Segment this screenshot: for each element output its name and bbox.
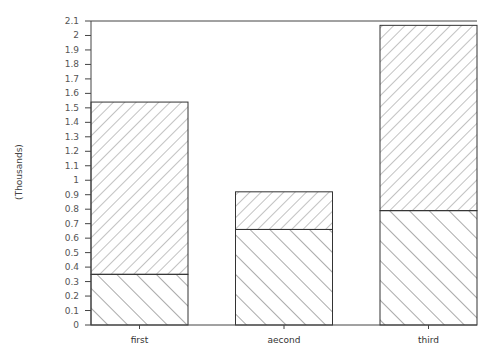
x-axis-labels: firstaecondthird: [131, 325, 439, 345]
y-tick-label: 1.6: [65, 88, 80, 98]
bar-segment-upper: [91, 102, 188, 274]
y-tick-label: 1.7: [65, 74, 79, 84]
y-tick-label: 2: [73, 30, 79, 40]
y-tick-label: 1.1: [65, 161, 79, 171]
bar-segment-upper: [380, 25, 477, 210]
y-tick-label: 1.2: [65, 146, 79, 156]
y-tick-label: 0.8: [65, 204, 80, 214]
y-tick-label: 1.5: [65, 103, 79, 113]
bar-segment-upper: [236, 192, 333, 230]
bar-segment-lower: [380, 211, 477, 325]
stacked-bar-chart: (Thousands) 00.10.20.30.40.50.60.70.80.9…: [0, 0, 494, 359]
y-axis-ticks: 00.10.20.30.40.50.60.70.80.911.11.21.31.…: [65, 16, 91, 330]
y-tick-label: 1: [73, 175, 79, 185]
y-tick-label: 1.3: [65, 132, 79, 142]
y-tick-label: 0.3: [65, 277, 79, 287]
y-tick-label: 1.9: [65, 45, 80, 55]
y-tick-label: 0.1: [65, 306, 79, 316]
y-tick-label: 2.1: [65, 16, 79, 26]
bar-segment-lower: [91, 274, 188, 325]
bar-segment-lower: [236, 229, 333, 325]
y-tick-label: 0.2: [65, 291, 79, 301]
x-tick-label: third: [418, 335, 439, 345]
y-tick-label: 1.8: [65, 59, 80, 69]
y-tick-label: 0.9: [65, 190, 80, 200]
y-tick-label: 0.5: [65, 248, 79, 258]
y-tick-label: 0.4: [65, 262, 80, 272]
y-tick-label: 0.6: [65, 233, 80, 243]
y-tick-label: 0: [73, 320, 79, 330]
x-tick-label: first: [131, 335, 149, 345]
y-tick-label: 0.7: [65, 219, 79, 229]
bars: [91, 25, 477, 325]
y-axis-title: (Thousands): [14, 144, 24, 200]
y-tick-label: 1.4: [65, 117, 80, 127]
x-tick-label: aecond: [268, 335, 301, 345]
